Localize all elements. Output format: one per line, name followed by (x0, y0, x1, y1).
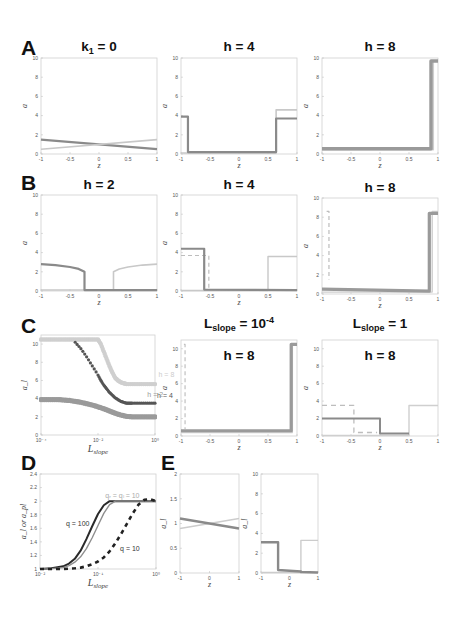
x-tick-label: 10⁻⁴ (36, 437, 47, 443)
x-axis-label: Lslope (87, 443, 108, 456)
y-tick-label: 10 (172, 346, 178, 352)
chart-annotation: q = 100 (66, 520, 90, 528)
chart-e1: 00.511.52-101za_l (159, 471, 241, 589)
y-axis-label: a (160, 241, 169, 245)
x-tick-label: 0.5 (265, 156, 272, 162)
chart-title-c2: Lslope = 10-4 (204, 315, 274, 333)
x-tick-label: -1 (320, 296, 325, 302)
y-axis-label: a (160, 386, 169, 390)
x-tick-label: 0.5 (406, 438, 413, 444)
axes-frame (41, 195, 157, 291)
chart-title-b3: h = 8 (364, 180, 396, 195)
y-axis-label: a (160, 104, 169, 108)
x-tick-label: 0.5 (406, 296, 413, 302)
chart-title-a1: k1 = 0 (81, 39, 116, 56)
chart-e2: 0246810-101za_l (240, 471, 320, 589)
y-tick-label: 0 (175, 288, 178, 294)
chart-c3: 0246810-1-0.500.51zah = 8 (301, 340, 440, 452)
x-tick-label: 0.5 (125, 156, 132, 162)
y-tick-label: 4 (175, 112, 178, 118)
chart-annotation: h = 2 (147, 391, 163, 398)
chart-a2: 0246810-1-0.500.51za (160, 55, 299, 170)
y-axis-label: a_l or a_pl (19, 503, 28, 539)
y-tick-label: 6 (316, 380, 319, 386)
inner-label: h = 8 (364, 348, 396, 363)
x-tick-label: 10⁻² (35, 571, 46, 577)
y-tick-label: 4 (255, 530, 258, 536)
x-tick-label: -1 (179, 156, 184, 162)
x-tick-label: 1 (437, 296, 440, 302)
x-tick-label: 10⁰ (151, 437, 159, 443)
x-tick-label: -0.5 (66, 156, 75, 162)
x-tick-label: -0.5 (66, 293, 75, 299)
x-axis-label: z (287, 580, 292, 589)
chart-title-a2: h = 4 (223, 39, 255, 54)
y-tick-label: 4 (175, 249, 178, 255)
y-tick-label: 6 (316, 93, 319, 99)
x-tick-label: 1 (317, 575, 320, 581)
x-tick-label: -0.5 (206, 293, 215, 299)
y-tick-label: 4 (316, 252, 319, 258)
y-tick-label: 8 (175, 363, 178, 369)
chart-b3: 0246810-1-0.500.51za (301, 195, 440, 310)
x-tick-label: -1 (39, 156, 44, 162)
y-axis-label: a (301, 244, 310, 248)
y-tick-label: 1.4 (30, 539, 37, 545)
y-tick-label: 10 (32, 341, 38, 347)
y-tick-label: 1.8 (30, 512, 37, 518)
y-tick-label: 2 (34, 498, 37, 504)
y-tick-label: 2 (175, 132, 178, 138)
y-tick-label: 2 (316, 415, 319, 421)
x-tick-label: -1 (320, 438, 325, 444)
y-tick-label: 2 (316, 132, 319, 138)
chart-b1: 0246810-1-0.500.51za (20, 192, 159, 307)
x-axis-label: z (377, 301, 382, 310)
x-tick-label: -1 (179, 438, 184, 444)
axes-frame (181, 195, 297, 291)
y-tick-label: 4 (316, 112, 319, 118)
y-tick-label: 6 (35, 230, 38, 236)
y-tick-label: 0 (175, 433, 178, 439)
chart-title-a3: h = 8 (364, 39, 396, 54)
x-tick-label: -0.5 (347, 438, 356, 444)
axes-frame (181, 58, 297, 154)
y-tick-label: 6 (175, 380, 178, 386)
y-tick-label: 8 (175, 74, 178, 80)
x-tick-label: 1 (296, 156, 299, 162)
x-tick-label: 1 (437, 156, 440, 162)
x-tick-label: -1 (178, 575, 183, 581)
chart-annotation: h = 8 (159, 371, 175, 378)
y-tick-label: 1 (174, 520, 177, 526)
y-axis-label: a (301, 386, 310, 390)
y-tick-label: 8 (255, 491, 258, 497)
y-tick-label: 1.5 (170, 496, 177, 502)
chart-annotation: qᵣ = qₗ = 10 (105, 492, 139, 500)
chart-title-b1: h = 2 (83, 177, 114, 192)
x-tick-label: 1 (296, 438, 299, 444)
y-tick-label: 4 (35, 112, 38, 118)
panel-letter-e: E (161, 451, 175, 474)
axes-frame (261, 474, 318, 573)
y-axis-label: a (20, 104, 29, 108)
x-tick-label: 1 (156, 293, 159, 299)
y-tick-label: 6 (316, 233, 319, 239)
data-point (85, 355, 88, 358)
y-tick-label: 2 (175, 415, 178, 421)
y-tick-label: 8 (316, 363, 319, 369)
y-tick-label: 10 (252, 471, 258, 477)
y-tick-label: 6 (175, 93, 178, 99)
y-tick-label: 0 (316, 291, 319, 297)
x-axis-label: Lslope (87, 577, 108, 590)
data-point (91, 364, 94, 367)
y-tick-label: 8 (35, 359, 38, 365)
x-tick-label: 0.5 (125, 293, 132, 299)
panel-letter-b: B (21, 171, 36, 194)
data-point (153, 382, 157, 386)
y-axis-label: a_l (240, 518, 249, 529)
axes-frame (40, 474, 156, 569)
x-tick-label: -1 (320, 156, 325, 162)
chart-title-b2: h = 4 (223, 177, 255, 192)
y-tick-label: 10 (313, 195, 319, 201)
y-tick-label: 0 (35, 151, 38, 157)
y-tick-label: 6 (35, 377, 38, 383)
